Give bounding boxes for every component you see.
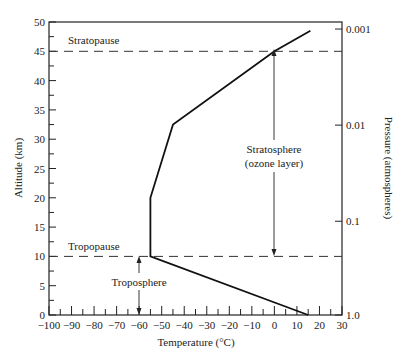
- tropopause-label: Tropopause: [68, 240, 120, 252]
- y-tick-label: 5: [40, 280, 46, 292]
- x-tick-label: −60: [131, 319, 149, 331]
- troposphere-label: Troposphere: [111, 276, 166, 288]
- y2-tick-label: 0.1: [346, 215, 360, 227]
- atmosphere-chart: 05101520253035404550 −100−90−80−70−60−50…: [0, 0, 396, 363]
- y-tick-label: 50: [34, 16, 46, 28]
- x-tick-label: 0: [272, 319, 278, 331]
- arrow-down-icon: [137, 308, 142, 315]
- x-tick-label: −30: [198, 319, 216, 331]
- x-tick-label: −90: [63, 319, 81, 331]
- y-tick-label: 30: [34, 133, 46, 145]
- y2-tick-label: 0.01: [346, 119, 365, 131]
- y-tick-label: 15: [34, 221, 46, 233]
- y2-tick-label: 1.0: [346, 309, 360, 321]
- y-tick-label: 20: [34, 192, 46, 204]
- arrow-down-icon: [272, 249, 277, 256]
- x-tick-label: −50: [153, 319, 171, 331]
- y-tick-label: 40: [34, 75, 46, 87]
- y2-axis-title: Pressure (atmospheres): [382, 117, 395, 220]
- y2-tick-label: 0.001: [346, 23, 371, 35]
- arrow-up-icon: [137, 256, 142, 263]
- y-tick-label: 45: [34, 45, 46, 57]
- x-tick-label: −80: [85, 319, 103, 331]
- stratopause-label: Stratopause: [68, 34, 119, 46]
- y-tick-label: 10: [34, 250, 46, 262]
- y2-axis: 0.0010.010.11.0: [335, 23, 371, 321]
- x-tick-label: 20: [314, 319, 326, 331]
- x-tick-label: 10: [291, 319, 303, 331]
- stratosphere-label: Stratosphere: [247, 143, 302, 155]
- x-axis-title: Temperature (°C): [157, 336, 235, 349]
- temperature-profile-line: [150, 31, 310, 315]
- x-tick-label: −10: [243, 319, 261, 331]
- y-axis: 05101520253035404550: [34, 16, 56, 321]
- ozone-layer-label: (ozone layer): [245, 157, 304, 170]
- x-tick-label: −100: [38, 319, 61, 331]
- y-tick-label: 35: [34, 104, 46, 116]
- y-axis-title: Altitude (km): [12, 138, 25, 199]
- x-tick-label: −20: [221, 319, 239, 331]
- x-axis: −100−90−80−70−60−50−40−30−20−100102030: [38, 306, 348, 331]
- x-tick-label: −70: [108, 319, 126, 331]
- x-tick-label: −40: [176, 319, 194, 331]
- y-tick-label: 25: [34, 163, 46, 175]
